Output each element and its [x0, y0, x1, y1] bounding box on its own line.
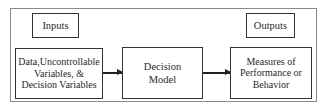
node-line: Performance or: [240, 67, 302, 79]
decision-model-node: Decision Model: [122, 47, 203, 99]
data-variables-node: Data,Uncontrollable Variables, & Decisio…: [15, 48, 103, 99]
outputs-label-box: Outputs: [246, 13, 295, 38]
measures-node: Measures of Performance or Behavior: [230, 47, 312, 99]
outputs-label: Outputs: [254, 20, 287, 32]
node-line: Model: [149, 73, 176, 86]
node-line: Decision Variables: [21, 79, 96, 91]
node-line: Decision: [144, 60, 181, 73]
inputs-label-box: Inputs: [32, 13, 79, 38]
node-line: Data,Uncontrollable: [18, 56, 99, 68]
inputs-label: Inputs: [42, 20, 68, 32]
arrow-model-to-measures: [203, 72, 230, 74]
arrow-data-to-model: [103, 72, 122, 74]
node-line: Behavior: [253, 79, 290, 91]
node-line: Measures of: [246, 56, 295, 68]
node-line: Variables, &: [34, 68, 84, 80]
